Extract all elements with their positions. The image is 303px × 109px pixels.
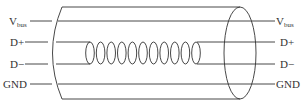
label-right-dminus: D− — [280, 58, 294, 70]
label-left-vbus: Vbus — [9, 15, 27, 29]
twisted-pair-coils — [86, 42, 201, 64]
label-left-dminus: D− — [10, 58, 24, 70]
label-left-dplus: D+ — [10, 36, 24, 48]
coil-loop — [128, 42, 137, 64]
usb-cable-diagram: Vbus D+ D− GND Vbus D+ D− GND — [0, 0, 303, 109]
coil-loop — [171, 42, 180, 64]
coil-loop — [181, 42, 190, 64]
left-labels: Vbus D+ D− GND — [3, 15, 27, 90]
coil-loop — [96, 42, 105, 64]
label-right-gnd: GND — [276, 78, 300, 90]
coil-loop — [192, 42, 201, 64]
label-right-dplus: D+ — [280, 36, 294, 48]
coil-loop — [149, 42, 158, 64]
label-left-gnd: GND — [3, 78, 27, 90]
coil-loop — [160, 42, 169, 64]
internal-wires — [56, 21, 240, 84]
coil-loop — [118, 42, 127, 64]
external-leads — [25, 21, 275, 84]
right-labels: Vbus D+ D− GND — [276, 15, 300, 90]
coil-loop — [139, 42, 148, 64]
coil-loop — [107, 42, 116, 64]
label-right-vbus: Vbus — [276, 15, 294, 29]
coil-loop — [86, 42, 95, 64]
